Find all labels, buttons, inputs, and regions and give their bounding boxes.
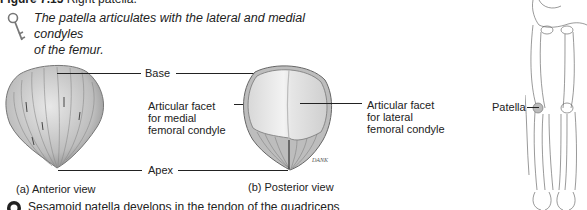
anterior-patella-illustration <box>2 62 112 170</box>
lateral-facet-label-line-3: femoral condyle <box>367 123 445 135</box>
base-leader-line-left <box>57 73 141 74</box>
lateral-facet-label-line-2: for lateral <box>367 111 445 123</box>
patella-label: Patella <box>492 101 526 113</box>
figure-caption-title: Right patella. <box>67 0 137 6</box>
question-icon <box>6 200 22 210</box>
key-concept-line-2: of the femur. <box>34 42 334 58</box>
skeleton-lower-limb-illustration <box>525 0 587 210</box>
artist-signature: DANK <box>312 157 328 163</box>
medial-facet-label: Articular facet for medial femoral condy… <box>148 100 226 136</box>
medial-facet-label-line-3: femoral condyle <box>148 124 226 136</box>
figure-number: Figure 7.15 <box>0 0 63 6</box>
base-label: Base <box>145 67 170 79</box>
lateral-facet-leader-line <box>300 103 362 104</box>
lateral-facet-label-line-1: Articular facet <box>367 99 445 111</box>
key-icon <box>6 12 28 46</box>
patella-highlight <box>533 103 543 113</box>
posterior-view-caption: (b) Posterior view <box>248 181 334 193</box>
medial-facet-label-line-2: for medial <box>148 112 226 124</box>
anterior-view-caption: (a) Anterior view <box>16 183 95 195</box>
apex-label: Apex <box>148 164 173 176</box>
medial-facet-label-line-1: Articular facet <box>148 100 226 112</box>
posterior-patella-illustration <box>235 62 335 172</box>
lateral-facet-label: Articular facet for lateral femoral cond… <box>367 99 445 135</box>
key-concept-line-1: The patella articulates with the lateral… <box>34 10 334 42</box>
figure-title: Figure 7.15 Right patella. <box>0 0 137 6</box>
apex-leader-line-left <box>58 170 142 171</box>
bottom-text: Sesamoid patella develops in the tendon … <box>28 200 340 210</box>
key-concept-text: The patella articulates with the lateral… <box>34 10 334 58</box>
patella-leader-line <box>527 107 539 108</box>
